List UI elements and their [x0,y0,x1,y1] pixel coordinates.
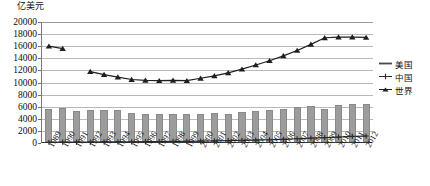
line-series-layer [42,22,373,143]
y-axis-tick-20000: 20000 [0,17,37,27]
legend-key-cross-icon [379,72,392,81]
chart-container: 亿美元 200001800016000140001200010000800060… [0,0,430,186]
legend-item-usa[interactable]: 美国 [379,57,430,70]
data-point-marker [280,53,286,58]
series-世界 [46,34,370,83]
y-axis-tick-0: 0 [0,138,37,148]
plot-area [41,22,372,143]
data-point-marker [294,48,300,53]
y-axis-tick-2000: 2000 [0,126,37,136]
y-axis-tick-12000: 12000 [0,65,37,75]
y-axis-tick-6000: 6000 [0,102,37,112]
y-axis-unit-caption: 亿美元 [17,1,44,12]
legend-key-triangle-icon [379,85,392,94]
legend-item-china[interactable]: 中国 [379,70,430,83]
legend-label: 世界 [395,84,413,96]
y-axis-tick-4000: 4000 [0,114,37,124]
data-point-marker [87,69,93,74]
legend-label: 美国 [395,58,413,70]
data-point-marker [308,42,314,47]
legend-label: 中国 [395,71,413,83]
y-axis-tick-labels: 2000018000160001400012000100008000600040… [0,22,39,143]
y-axis-tick-14000: 14000 [0,53,37,63]
y-axis-tick-10000: 10000 [0,78,37,88]
legend-key-line-icon [379,59,392,68]
chart-legend: 美国中国世界 [379,57,430,96]
plot-inner [42,22,372,142]
legend-item-world[interactable]: 世界 [379,83,430,96]
y-axis-tick-8000: 8000 [0,90,37,100]
x-axis-tick-labels: 1989199019911992199319941995199619971998… [41,144,372,186]
y-axis-tick-16000: 16000 [0,41,37,51]
y-axis-tick-18000: 18000 [0,29,37,39]
